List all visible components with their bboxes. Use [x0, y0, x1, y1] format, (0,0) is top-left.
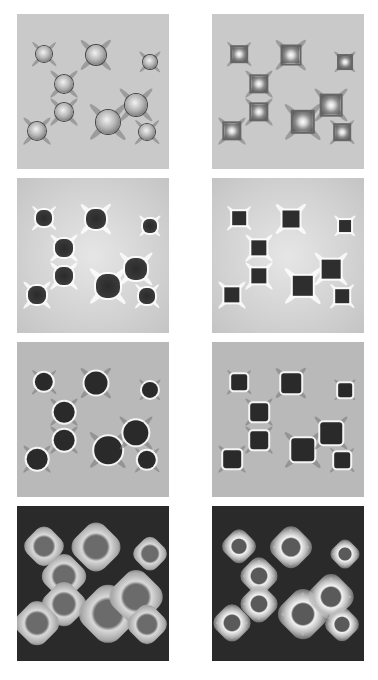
sphere-particle: [28, 122, 46, 140]
sphere-particle: [96, 110, 120, 134]
panel-r2-c1: [17, 178, 169, 333]
sphere-particle: [36, 46, 52, 62]
cube-particle: [327, 536, 362, 571]
cube-particle: [335, 125, 349, 139]
cube-particle: [232, 211, 246, 225]
sphere-particle: [143, 219, 157, 233]
cube-particle: [251, 268, 266, 283]
sphere-particle: [28, 286, 46, 304]
cube-particle: [251, 240, 266, 255]
cube-particle: [232, 47, 246, 61]
sphere-particle: [36, 210, 52, 226]
cube-particle: [293, 112, 313, 132]
sphere-particle: [55, 75, 73, 93]
sphere-particle: [54, 402, 75, 423]
cube-particle: [339, 220, 351, 232]
sphere-particle: [139, 288, 155, 304]
sphere-particle: [85, 372, 108, 395]
sphere-particle: [27, 449, 48, 470]
panel-r4-c2: [212, 506, 364, 661]
sphere-particle: [125, 94, 147, 116]
sphere-particle: [86, 209, 106, 229]
cube-particle: [250, 403, 268, 421]
sphere-particle: [94, 436, 122, 464]
sphere-particle: [55, 103, 73, 121]
cube-particle: [251, 76, 266, 91]
cube-particle: [338, 383, 352, 397]
panel-r3-c2: [212, 342, 364, 497]
sphere-particle: [96, 274, 120, 298]
sphere-particle: [139, 124, 155, 140]
cube-particle: [224, 123, 239, 138]
panel-r1-c1: [17, 14, 169, 169]
cube-particle: [322, 96, 341, 115]
cube-particle: [320, 422, 342, 444]
cube-particle: [293, 276, 313, 296]
cube-particle: [281, 373, 301, 393]
cube-particle: [224, 287, 239, 302]
cube-particle: [283, 47, 300, 64]
cube-particle: [334, 452, 350, 468]
cube-particle: [335, 289, 349, 303]
panel-r2-c2: [212, 178, 364, 333]
cube-particle: [339, 56, 351, 68]
cube-particle: [250, 431, 268, 449]
sphere-particle: [129, 533, 169, 575]
cube-particle: [266, 522, 316, 572]
sphere-particle: [54, 430, 75, 451]
panel-r3-c1: [17, 342, 169, 497]
sphere-particle: [55, 267, 73, 285]
cube-particle: [283, 211, 300, 228]
cube-particle: [223, 450, 241, 468]
cube-particle: [322, 260, 341, 279]
sphere-particle: [125, 258, 147, 280]
panel-r4-c1: [17, 506, 169, 661]
panel-r1-c2: [212, 14, 364, 169]
sphere-particle: [86, 45, 106, 65]
cube-particle: [251, 104, 266, 119]
cube-particle: [231, 374, 247, 390]
cube-particle: [291, 438, 314, 461]
sphere-particle: [55, 239, 73, 257]
sphere-particle: [143, 55, 157, 69]
